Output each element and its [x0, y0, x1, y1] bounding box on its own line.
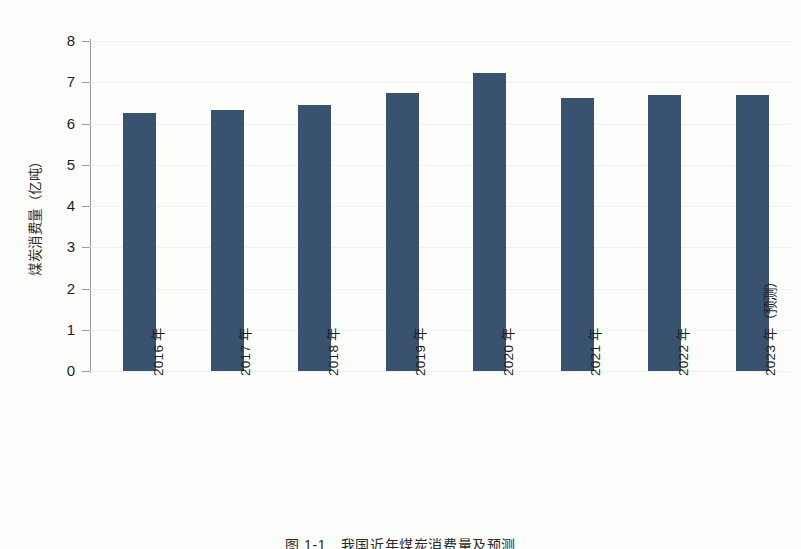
y-axis-title-text: 煤炭消费量（亿吨） [24, 154, 44, 276]
x-axis-tick-label: 2020 年 [497, 376, 517, 396]
x-axis-tick-label-text: 2021 年 [584, 327, 604, 376]
x-axis-tick-label: 2018 年 [322, 376, 342, 396]
figure-container: 煤炭消费量（亿吨） 876543210 2016 年2017 年2018 年20… [0, 0, 801, 549]
y-axis-tick-label: 5 [67, 155, 75, 175]
gridline [90, 82, 790, 83]
gridline [90, 124, 790, 125]
y-axis-tick: 3 [82, 247, 90, 248]
y-axis-tick: 1 [82, 330, 90, 331]
plot-area: 876543210 [90, 41, 790, 371]
y-axis-tick: 7 [82, 82, 90, 83]
x-axis-tick-label-text: 2019 年 [409, 327, 429, 376]
y-axis-tick: 0 [82, 371, 90, 372]
y-axis-tick-label: 1 [67, 320, 75, 340]
x-axis-tick-label: 2023 年（预测） [759, 376, 779, 396]
x-axis-tick-label-text: 2020 年 [497, 327, 517, 376]
y-axis-tick-label: 4 [67, 196, 75, 216]
bar [473, 73, 506, 371]
y-axis-tick: 5 [82, 165, 90, 166]
gridline [90, 289, 790, 290]
y-axis-tick-label: 0 [67, 361, 75, 381]
x-axis-tick-label-text: 2023 年（预测） [759, 274, 779, 376]
x-axis-tick-label: 2016 年 [147, 376, 167, 396]
y-axis-tick-label: 3 [67, 237, 75, 257]
x-axis-tick-label-text: 2022 年 [672, 327, 692, 376]
figure-caption: 图 1-1 我国近年煤炭消费量及预测 [0, 534, 801, 549]
gridline [90, 165, 790, 166]
gridline [90, 41, 790, 42]
x-axis-tick-label: 2019 年 [409, 376, 429, 396]
x-axis-tick-label: 2017 年 [234, 376, 254, 396]
y-axis-title: 煤炭消费量（亿吨） [20, 120, 48, 310]
gridline [90, 247, 790, 248]
x-axis-tick-label: 2022 年 [672, 376, 692, 396]
y-axis-tick-label: 8 [67, 31, 75, 51]
y-axis-tick: 4 [82, 206, 90, 207]
y-axis-tick-label: 6 [67, 114, 75, 134]
gridline [90, 206, 790, 207]
y-axis-tick-label: 7 [67, 72, 75, 92]
x-axis-tick-label-text: 2016 年 [147, 327, 167, 376]
x-axis-labels: 2016 年2017 年2018 年2019 年2020 年2021 年2022… [90, 376, 790, 526]
x-axis-tick-label: 2021 年 [584, 376, 604, 396]
y-axis-tick-label: 2 [67, 279, 75, 299]
y-axis-tick: 2 [82, 289, 90, 290]
y-axis-tick: 6 [82, 124, 90, 125]
x-axis-tick-label-text: 2017 年 [234, 327, 254, 376]
y-axis-tick: 8 [82, 41, 90, 42]
x-axis-tick-label-text: 2018 年 [322, 327, 342, 376]
